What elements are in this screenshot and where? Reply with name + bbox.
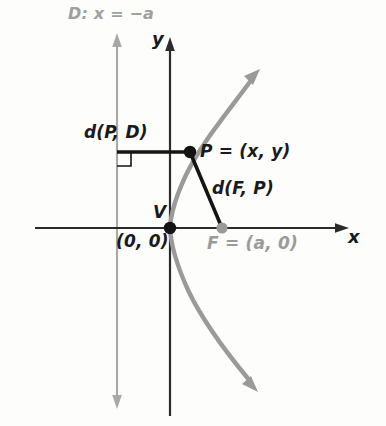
x-axis-label: x [348, 228, 360, 246]
parabola-path [170, 79, 252, 381]
point-p-label: P = (x, y) [200, 143, 291, 160]
x-axis-arrow-icon [335, 223, 349, 233]
directrix-label: D: x = −a [68, 6, 154, 22]
y-axis-arrow-icon [165, 37, 175, 51]
x-axis [35, 223, 349, 233]
distance-focus-point-label: d(F, P) [212, 180, 274, 197]
distance-point-directrix-label: d(P, D) [84, 124, 148, 141]
right-angle-marker-icon [117, 152, 131, 166]
focus-f-label: F = (a, 0) [207, 235, 298, 252]
figure-canvas [0, 0, 386, 426]
parabola-figure: D: x = −a y x d(P, D) d(F, P) P = (x, y)… [0, 0, 386, 426]
origin-label: (0, 0) [116, 233, 169, 250]
focus-f-dot [216, 222, 227, 233]
point-p-dot [184, 146, 196, 158]
segment-p-to-directrix [117, 152, 190, 166]
parabola-curve [170, 69, 260, 392]
parabola-arrow-lower-icon [242, 376, 258, 392]
directrix-line [112, 33, 122, 409]
vertex-v-label: V [153, 204, 166, 221]
parabola-arrow-upper-icon [244, 69, 260, 85]
directrix-arrow-down-icon [112, 395, 122, 409]
directrix-arrow-up-icon [112, 33, 122, 47]
y-axis-label: y [152, 30, 164, 48]
